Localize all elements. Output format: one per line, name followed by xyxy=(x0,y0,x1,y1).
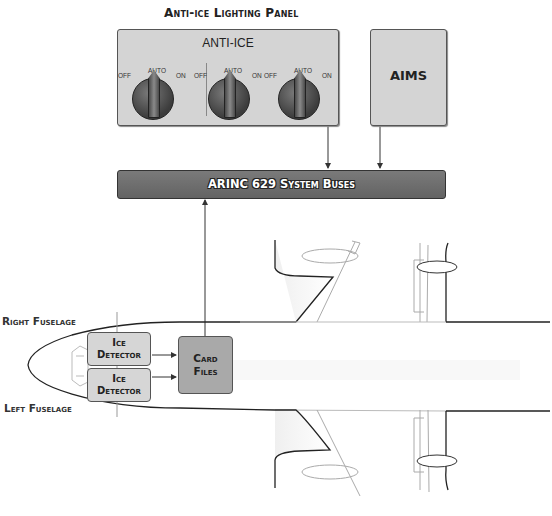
panel-label: ANTI-ICE xyxy=(118,36,338,50)
left-fuselage-label: Left Fuselage xyxy=(4,402,72,414)
panel-title: Anti-ice Lighting Panel xyxy=(164,6,299,20)
aims-box: AIMS xyxy=(370,29,447,126)
knob-pointer-icon xyxy=(148,70,160,118)
system-bus: ARINC 629 System Buses xyxy=(117,170,446,199)
anti-ice-knob-3[interactable]: OFF AUTO ON xyxy=(264,67,339,127)
detector-line2: Detector xyxy=(88,385,150,397)
anti-ice-knob-2[interactable]: OFF AUTO ON xyxy=(194,67,269,127)
bus-label: ARINC 629 System Buses xyxy=(118,177,445,191)
knob-on-label: ON xyxy=(252,72,262,79)
card-files-box: Card Files xyxy=(178,336,233,394)
knob-pointer-icon xyxy=(224,70,236,118)
aims-label: AIMS xyxy=(371,68,446,83)
knob-auto-label: AUTO xyxy=(148,67,166,74)
left-ice-detector: Ice Detector xyxy=(87,368,151,402)
knob-auto-label: AUTO xyxy=(294,67,312,74)
card-files-line1: Card xyxy=(179,352,232,365)
detector-line1: Ice xyxy=(88,373,150,385)
knob-off-label: OFF xyxy=(118,72,131,79)
detector-line1: Ice xyxy=(88,337,150,349)
card-files-line2: Files xyxy=(179,365,232,378)
anti-ice-knob-1[interactable]: OFF AUTO ON xyxy=(118,67,193,127)
knob-pointer-icon xyxy=(294,70,306,118)
knob-off-label: OFF xyxy=(194,72,207,79)
anti-ice-panel: ANTI-ICE OFF AUTO ON OFF AUTO ON OFF AUT… xyxy=(117,29,339,126)
knob-off-label: OFF xyxy=(264,72,277,79)
right-fuselage-label: Right Fuselage xyxy=(2,315,76,327)
right-ice-detector: Ice Detector xyxy=(87,332,151,366)
detector-line2: Detector xyxy=(88,349,150,361)
knob-on-label: ON xyxy=(176,72,186,79)
knob-auto-label: AUTO xyxy=(224,67,242,74)
knob-on-label: ON xyxy=(322,72,332,79)
